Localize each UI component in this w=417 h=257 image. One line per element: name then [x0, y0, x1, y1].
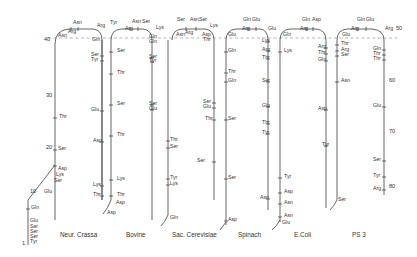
amino-acid-label: Glu — [262, 102, 270, 108]
amino-acid-label: Arg — [97, 22, 105, 28]
amino-acid-label: Ser — [373, 156, 381, 162]
residue-number: 30 — [46, 92, 52, 98]
amino-acid-label: Tyr — [149, 57, 156, 63]
amino-acid-label: Asp — [116, 199, 125, 205]
residue-number: 80 — [389, 183, 395, 189]
amino-acid-label: Asp — [107, 209, 116, 215]
amino-acid-label: Lys — [210, 22, 218, 28]
amino-acid-label: Asn — [58, 32, 67, 38]
amino-acid-label: Gln — [149, 38, 157, 44]
amino-acid-label: Lys — [284, 47, 292, 53]
amino-acid-label: Ser — [54, 177, 62, 183]
amino-acid-label: Ser — [117, 100, 125, 106]
amino-acid-label: Lys — [170, 180, 178, 186]
amino-acid-label: Glu — [228, 31, 236, 37]
organism-caption: Spinach — [238, 231, 262, 239]
amino-acid-label: Tyr — [30, 238, 37, 244]
amino-acid-label: Ser — [142, 18, 150, 24]
amino-acid-label: Glu — [373, 102, 381, 108]
amino-acid-label: Gln — [228, 77, 236, 83]
amino-acid-label: Ser — [338, 196, 346, 202]
residue-number: 1 — [22, 240, 25, 246]
amino-acid-label: Arg — [385, 25, 393, 31]
amino-acid-label: Thr — [59, 113, 67, 119]
amino-acid-label: Asn — [260, 194, 269, 200]
amino-acid-label: Arg — [351, 25, 359, 31]
amino-acid-label: Asn — [284, 212, 293, 218]
amino-acid-label: Thr — [203, 36, 211, 42]
amino-acid-label: Thr — [117, 131, 125, 137]
residue-number: 70 — [389, 128, 395, 134]
amino-acid-label: Thr — [117, 191, 125, 197]
organism-caption: Sac. Cerevisiae — [172, 231, 217, 238]
residue-number: 50 — [396, 25, 402, 31]
amino-acid-label: Arg — [68, 28, 76, 34]
amino-acid-label: Thr — [205, 115, 213, 121]
amino-acid-label: Asp — [284, 188, 293, 194]
residue-number-labels: 11020304050607080 — [22, 25, 402, 246]
amino-acid-label: Gln — [318, 56, 326, 62]
amino-acid-label: Glu — [268, 25, 276, 31]
amino-acid-label: Ser — [341, 51, 349, 57]
amino-acid-label: Thr — [262, 119, 270, 125]
amino-acid-label: Gln — [283, 31, 291, 37]
amino-acid-label: Glu — [44, 188, 52, 194]
hairpin-bovine — [100, 27, 152, 220]
amino-acid-label: Asp — [93, 137, 102, 143]
amino-acid-label: Gln — [92, 36, 100, 42]
residue-number: 60 — [389, 77, 395, 83]
amino-acid-label: Asn — [176, 31, 185, 37]
residue-number: 20 — [46, 144, 52, 150]
amino-acid-label: Ser — [197, 157, 205, 163]
amino-acid-label: Glu — [282, 219, 290, 225]
amino-acid-label: Gln — [243, 16, 251, 22]
amino-acid-label: Thr — [117, 69, 125, 75]
amino-acid-label: Arg — [300, 25, 308, 31]
organism-caption: PS 3 — [352, 231, 366, 238]
amino-acid-label: Arg — [242, 25, 250, 31]
amino-acid-label: Glu — [91, 106, 99, 112]
amino-acid-label: Asn — [284, 199, 293, 205]
amino-acid-label: Asn — [73, 19, 82, 25]
amino-acid-label: Gln — [170, 214, 178, 220]
organism-caption: Bovine — [126, 231, 146, 238]
amino-acid-label: Asn — [341, 77, 350, 83]
amino-acid-label: Thr — [228, 68, 236, 74]
hairpin-alignment-diagram: 11020304050607080 AsnArgArgAsnGlnSerTyrT… — [0, 0, 417, 257]
amino-acid-label: Arg — [125, 25, 133, 31]
amino-acid-label: Asp — [228, 216, 237, 222]
amino-acid-label: Asn — [190, 16, 199, 22]
amino-acid-label: Tyr — [262, 129, 269, 135]
amino-acid-label: Glu — [149, 105, 157, 111]
amino-acid-label: Tyr — [91, 56, 98, 62]
amino-acid-label: Gln — [302, 16, 310, 22]
amino-acid-label: Gln — [357, 16, 365, 22]
amino-acid-labels: AsnArgArgAsnGlnSerTyrThrGluSerAspLysSerG… — [30, 16, 393, 244]
amino-acid-label: Arg — [185, 29, 193, 35]
amino-acid-label: Ser — [228, 174, 236, 180]
amino-acid-label: Tyr — [110, 19, 117, 25]
amino-acid-label: Gln — [31, 204, 39, 210]
hairpin-spinach — [172, 27, 268, 230]
organism-captions: Neur. CrassaBovineSac. CerevisiaeSpinach… — [60, 231, 366, 239]
amino-acid-label: Thr — [373, 55, 381, 61]
amino-acid-label: Ser — [170, 143, 178, 149]
amino-acid-label: Thr — [318, 49, 326, 55]
amino-acid-label: Ser — [117, 47, 125, 53]
amino-acid-label: Lys — [93, 181, 101, 187]
amino-acid-label: Asp — [312, 16, 321, 22]
amino-acid-label: Glu — [366, 16, 374, 22]
amino-acid-label: Tyr — [322, 141, 329, 147]
amino-acid-label: Ser — [228, 115, 236, 121]
amino-acid-label: Ser — [58, 145, 66, 151]
amino-acid-label: Thr — [262, 54, 270, 60]
amino-acid-label: Arg — [373, 185, 381, 191]
amino-acid-label: Ser — [199, 16, 207, 22]
amino-acid-label: Tyr — [284, 173, 291, 179]
amino-acid-label: Glu — [203, 103, 211, 109]
residue-number: 40 — [44, 36, 50, 42]
amino-acid-label: Lys — [117, 175, 125, 181]
amino-acid-label: Thr — [93, 191, 101, 197]
amino-acid-label: Asp — [318, 105, 327, 111]
amino-acid-label: Arg — [262, 46, 270, 52]
